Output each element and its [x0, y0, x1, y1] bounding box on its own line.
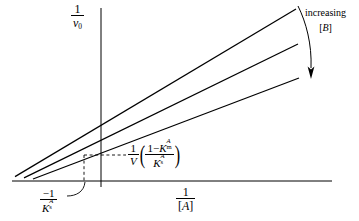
y-intercept-prefix-numerator: 1: [128, 143, 139, 155]
x-intercept-annotation: −1 KAs: [40, 188, 57, 214]
y-axis-label-fraction: 1 v0: [71, 3, 84, 31]
km-a-script: Am: [166, 141, 172, 152]
y-intercept-ratio-fraction: 1−KAm KAs: [145, 141, 174, 169]
x-axis-label-denominator: [A]: [176, 199, 195, 212]
increasing-b-annotation: increasing [B]: [305, 6, 346, 35]
x-axis-label-fraction: 1 [A]: [176, 186, 195, 212]
x-intercept-leader-curve: [67, 182, 85, 196]
y-axis-label: 1 v0: [71, 3, 84, 31]
increasing-b-line1: increasing: [305, 6, 346, 21]
paren-close: ): [175, 144, 180, 165]
paren-open: (: [139, 144, 144, 165]
ks-a-script: As: [49, 201, 55, 212]
y-intercept-annotation: 1 V ( 1−KAm KAs ): [128, 141, 181, 169]
y-axis-label-denominator: v0: [71, 16, 84, 31]
x-intercept-denominator: KAs: [40, 200, 57, 214]
y-intercept-prefix-denominator: V: [128, 155, 139, 167]
lineweaver-burk-figure: 1 v0 1 [A] −1 KAs 1 V ( 1−KAm KAs ): [0, 0, 359, 221]
increasing-b-arrow-head: [308, 67, 315, 80]
x-axis-label: 1 [A]: [176, 186, 195, 212]
ks-a-script-2: As: [161, 156, 167, 167]
y-intercept-prefix-fraction: 1 V: [128, 143, 139, 167]
y-axis-label-numerator: 1: [71, 3, 84, 16]
y-intercept-inner-expression: 1−KAm KAs: [145, 141, 174, 169]
x-axis-label-numerator: 1: [176, 186, 195, 199]
increasing-b-line2: [B]: [305, 21, 346, 36]
y-intercept-ratio-denominator: KAs: [145, 155, 174, 169]
x-intercept-fraction: −1 KAs: [40, 188, 57, 214]
